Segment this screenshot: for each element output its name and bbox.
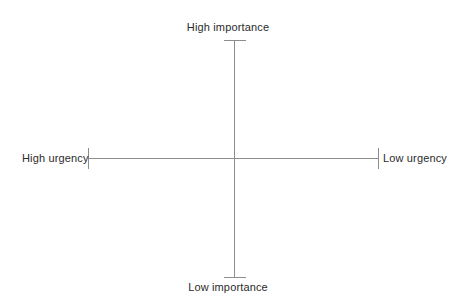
- importance-axis-bottom-tick: [224, 277, 246, 278]
- importance-axis-top-tick: [224, 40, 246, 41]
- axis-label-low-urgency: Low urgency: [383, 152, 447, 165]
- urgency-axis-line: [88, 158, 379, 159]
- axis-label-low-importance: Low importance: [0, 281, 460, 294]
- axis-label-high-urgency: High urgency: [22, 152, 89, 165]
- importance-axis-line: [234, 40, 235, 278]
- urgency-axis-right-tick: [378, 148, 379, 169]
- quadrant-matrix-canvas: High importance Low importance High urge…: [0, 0, 460, 305]
- axis-label-high-importance: High importance: [0, 21, 460, 34]
